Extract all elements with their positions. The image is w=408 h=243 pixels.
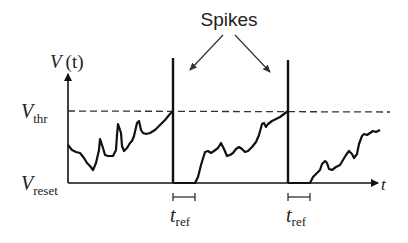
refractory-bracket-1 <box>173 193 195 201</box>
spikes-arrow-right <box>235 35 270 72</box>
y-axis-label: V(t) <box>50 51 84 73</box>
threshold-label: Vthr <box>21 100 48 126</box>
lif-diagram: Spikes V(t) t Vthr Vreset tref tref <box>0 0 408 243</box>
membrane-trace-2 <box>173 111 288 183</box>
threshold-line <box>68 111 390 112</box>
refractory-bracket-2 <box>288 193 310 201</box>
spikes-label: Spikes <box>200 9 257 30</box>
reset-label: Vreset <box>21 172 58 198</box>
x-axis-label: t <box>381 175 387 194</box>
refractory-label-2: tref <box>286 204 307 229</box>
membrane-trace-1 <box>68 111 173 170</box>
membrane-trace-3 <box>288 130 380 183</box>
refractory-label-1: tref <box>170 204 191 229</box>
spikes-arrow-left <box>190 35 223 70</box>
